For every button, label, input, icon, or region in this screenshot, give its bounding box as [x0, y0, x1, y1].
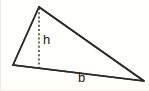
height-label: h: [43, 33, 50, 46]
triangle-diagram-svg: [0, 0, 149, 91]
base-label: b: [78, 71, 85, 84]
triangle-left-side: [13, 7, 39, 65]
geometry-figure: h b: [0, 0, 149, 91]
